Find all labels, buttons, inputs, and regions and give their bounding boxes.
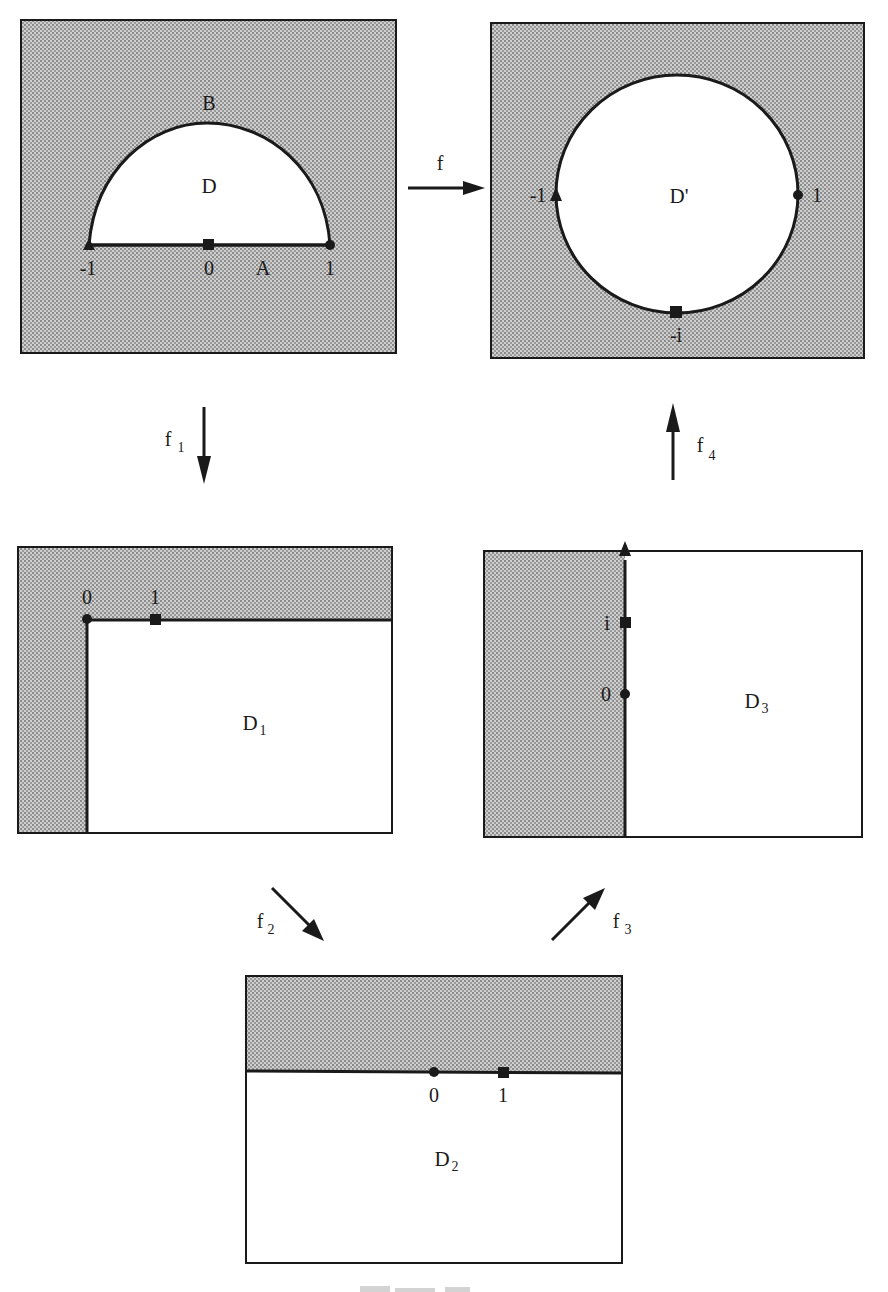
panel-d3: i 0 D 3 xyxy=(484,541,862,837)
shaded-half-plane xyxy=(246,976,622,1072)
panel-d: B D -1 0 A 1 xyxy=(21,20,396,353)
point-label: 1 xyxy=(150,586,160,608)
arrow-down-icon xyxy=(197,456,211,484)
map-subscript: 1 xyxy=(178,440,185,455)
region-label: D xyxy=(201,174,216,198)
region-subscript: 1 xyxy=(260,723,267,738)
square-marker-icon xyxy=(620,617,631,628)
point-label: i xyxy=(604,612,610,634)
region-label: D xyxy=(744,689,759,713)
map-arrow-f3: f 3 xyxy=(552,888,632,940)
point-label: 1 xyxy=(325,257,335,279)
circle-marker-icon xyxy=(325,240,335,250)
caption-fragment xyxy=(360,1286,470,1292)
point-label: -1 xyxy=(530,184,547,206)
region-label: D' xyxy=(670,184,689,208)
region-subscript: 3 xyxy=(762,701,769,716)
arrow-right-icon xyxy=(463,181,485,195)
region-label: D xyxy=(434,1147,449,1171)
quadrant-region xyxy=(87,620,392,833)
region-subscript: 2 xyxy=(452,1159,459,1174)
map-arrow-f4: f 4 xyxy=(666,403,716,480)
panel-d2: 0 1 D 2 xyxy=(246,976,622,1263)
conformal-map-diagram: B D -1 0 A 1 f D' -1 1 -i f 1 f 4 xyxy=(0,0,888,1292)
circle-marker-icon xyxy=(793,190,803,200)
square-marker-icon xyxy=(150,614,161,625)
circle-marker-icon xyxy=(429,1067,439,1077)
map-subscript: 3 xyxy=(625,922,632,937)
point-label: 0 xyxy=(429,1084,439,1106)
map-arrow-f: f xyxy=(408,152,485,195)
map-arrow-f2: f 2 xyxy=(257,888,324,941)
point-label: 0 xyxy=(82,586,92,608)
map-label: f xyxy=(697,434,704,456)
segment-label: A xyxy=(256,257,271,279)
region-label: D xyxy=(242,711,257,735)
circle-marker-icon xyxy=(620,689,630,699)
arc-label: B xyxy=(202,92,215,114)
point-label: 1 xyxy=(812,184,822,206)
map-subscript: 4 xyxy=(709,448,716,463)
map-label: f xyxy=(165,428,172,450)
circle-marker-icon xyxy=(82,614,92,624)
panel-d1: 0 1 D 1 xyxy=(18,547,392,833)
point-label: 0 xyxy=(204,257,214,279)
triangle-marker-icon xyxy=(619,541,631,556)
panel-d-prime: D' -1 1 -i xyxy=(491,23,864,358)
square-marker-icon xyxy=(670,306,682,318)
map-label: f xyxy=(613,910,620,932)
square-marker-icon xyxy=(498,1067,509,1078)
map-subscript: 2 xyxy=(268,922,275,937)
point-label: 0 xyxy=(601,683,611,705)
map-arrow-f1: f 1 xyxy=(165,407,211,484)
map-label: f xyxy=(257,910,264,932)
square-marker-icon xyxy=(203,239,214,250)
arrow-up-icon xyxy=(666,403,680,432)
map-label: f xyxy=(437,152,444,174)
point-label: -1 xyxy=(80,257,97,279)
point-label: -i xyxy=(670,324,683,346)
point-label: 1 xyxy=(498,1084,508,1106)
